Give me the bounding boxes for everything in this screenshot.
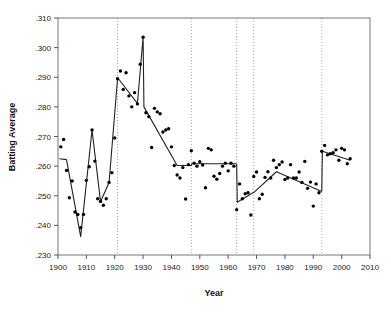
data-point — [62, 138, 65, 141]
data-point — [263, 176, 266, 179]
data-point — [252, 175, 255, 178]
data-point — [218, 172, 221, 175]
data-point — [93, 159, 96, 162]
data-point — [303, 160, 306, 163]
data-point — [147, 115, 150, 118]
data-point — [65, 169, 68, 172]
data-point — [127, 94, 130, 97]
data-point — [181, 166, 184, 169]
data-point — [119, 69, 122, 72]
data-point — [320, 150, 323, 153]
x-tick-label-1990: 1990 — [304, 263, 322, 272]
data-point — [110, 171, 113, 174]
data-point — [275, 166, 278, 169]
y-tick-label-.310: .310 — [35, 14, 51, 23]
data-point — [272, 159, 275, 162]
data-point — [90, 128, 93, 131]
data-point — [297, 170, 300, 173]
data-point — [175, 173, 178, 176]
data-point — [192, 161, 195, 164]
data-point — [136, 102, 139, 105]
data-point — [266, 170, 269, 173]
data-point — [261, 193, 264, 196]
data-point — [280, 160, 283, 163]
x-axis-title: Year — [204, 288, 224, 298]
data-point — [201, 163, 204, 166]
data-point — [88, 165, 91, 168]
data-point — [184, 197, 187, 200]
data-point — [133, 91, 136, 94]
data-point — [300, 181, 303, 184]
data-point — [278, 163, 281, 166]
data-point — [331, 151, 334, 154]
data-point — [73, 210, 76, 213]
data-point — [312, 204, 315, 207]
data-point — [178, 176, 181, 179]
data-point — [167, 127, 170, 130]
x-tick-label-1900: 1900 — [49, 263, 67, 272]
data-point — [124, 71, 127, 74]
x-tick-label-2000: 2000 — [333, 263, 351, 272]
data-point — [309, 180, 312, 183]
data-point — [76, 213, 79, 216]
data-point — [85, 179, 88, 182]
y-axis-title: Batting Average — [7, 103, 17, 171]
y-tick-label-.270: .270 — [35, 133, 51, 142]
data-point — [150, 146, 153, 149]
data-point — [348, 157, 351, 160]
data-point — [195, 164, 198, 167]
data-point — [209, 148, 212, 151]
y-tick-label-.280: .280 — [35, 103, 51, 112]
data-point — [337, 159, 340, 162]
data-point — [323, 144, 326, 147]
x-tick-label-1910: 1910 — [77, 263, 95, 272]
data-point — [238, 182, 241, 185]
data-point — [173, 164, 176, 167]
data-point — [212, 175, 215, 178]
x-tick-label-1940: 1940 — [163, 263, 181, 272]
data-point — [221, 164, 224, 167]
data-point — [204, 186, 207, 189]
x-tick-label-1980: 1980 — [276, 263, 294, 272]
data-point — [190, 149, 193, 152]
data-point — [334, 148, 337, 151]
data-point — [232, 164, 235, 167]
y-tick-label-.250: .250 — [35, 192, 51, 201]
data-point — [269, 176, 272, 179]
data-point — [105, 197, 108, 200]
data-point — [286, 176, 289, 179]
data-point — [235, 208, 238, 211]
x-tick-label-1920: 1920 — [106, 263, 124, 272]
data-point — [198, 160, 201, 163]
data-point — [107, 181, 110, 184]
data-point — [68, 196, 71, 199]
data-point — [96, 197, 99, 200]
y-tick-label-.230: .230 — [35, 251, 51, 260]
data-point — [82, 213, 85, 216]
data-point — [241, 197, 244, 200]
data-point — [153, 107, 156, 110]
x-tick-label-2010: 2010 — [361, 263, 379, 272]
data-point — [156, 110, 159, 113]
y-tick-label-.260: .260 — [35, 162, 51, 171]
data-point — [187, 163, 190, 166]
data-point — [289, 163, 292, 166]
data-point — [224, 161, 227, 164]
data-point — [139, 63, 142, 66]
x-tick-label-1970: 1970 — [248, 263, 266, 272]
x-tick-label-1950: 1950 — [191, 263, 209, 272]
batting-average-chart: 1900191019201930194019501960197019801990… — [0, 0, 391, 312]
data-point — [346, 162, 349, 165]
data-point — [144, 111, 147, 114]
data-point — [158, 112, 161, 115]
data-point — [130, 105, 133, 108]
data-point — [102, 204, 105, 207]
data-point — [258, 197, 261, 200]
data-point — [79, 226, 82, 229]
chart-figure: 1900191019201930194019501960197019801990… — [0, 0, 391, 312]
data-point — [226, 169, 229, 172]
data-point — [116, 77, 119, 80]
data-point — [306, 187, 309, 190]
data-point — [295, 176, 298, 179]
y-tick-label-.300: .300 — [35, 44, 51, 53]
